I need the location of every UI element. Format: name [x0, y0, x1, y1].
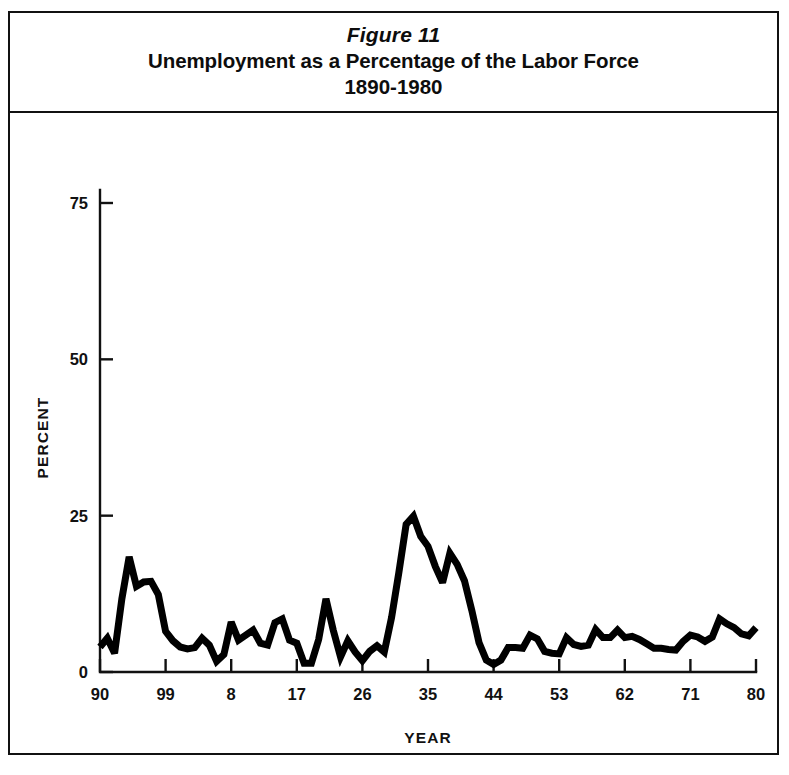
chart-y-ticks: 0255075: [70, 194, 113, 681]
chart-axes: [100, 190, 756, 672]
x-tick-label: 71: [681, 685, 699, 703]
y-tick-label: 50: [70, 350, 88, 368]
chart-plot-area: 0255075 909981726354453627180 YEARPERCEN…: [8, 113, 779, 755]
figure-subtitle: 1890-1980: [344, 75, 442, 100]
x-tick-label: 99: [156, 685, 174, 703]
x-tick-label: 90: [91, 685, 109, 703]
unemployment-line-chart: 0255075 909981726354453627180 YEARPERCEN…: [8, 113, 779, 755]
x-tick-label: 8: [227, 685, 236, 703]
figure-title-block: Figure 11 Unemployment as a Percentage o…: [8, 11, 779, 113]
y-axis-title: PERCENT: [34, 397, 51, 479]
axis-spine: [100, 190, 756, 672]
x-tick-label: 17: [288, 685, 306, 703]
x-axis-title: YEAR: [404, 729, 451, 746]
chart-x-ticks: 909981726354453627180: [91, 659, 765, 703]
figure-root: Figure 11 Unemployment as a Percentage o…: [0, 0, 789, 775]
x-tick-label: 26: [353, 685, 371, 703]
y-tick-label: 25: [70, 507, 88, 525]
x-tick-label: 35: [419, 685, 437, 703]
x-tick-label: 53: [550, 685, 568, 703]
x-tick-label: 80: [747, 685, 765, 703]
chart-series-group: [100, 516, 756, 664]
y-tick-label: 0: [79, 663, 88, 681]
figure-title: Unemployment as a Percentage of the Labo…: [148, 49, 639, 74]
x-tick-label: 62: [616, 685, 634, 703]
figure-number-label: Figure 11: [347, 23, 441, 48]
series-line-unemployment-rate: [100, 516, 756, 664]
x-tick-label: 44: [484, 685, 503, 703]
y-tick-label: 75: [70, 194, 88, 212]
